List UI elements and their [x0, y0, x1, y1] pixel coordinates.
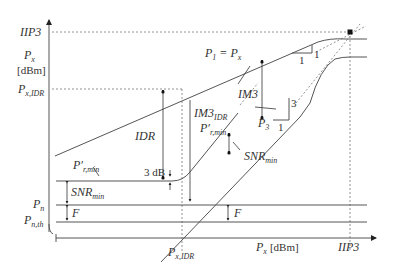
label-idr: IDR	[134, 129, 156, 143]
label-prmin-top: P′r,min	[199, 121, 226, 137]
y-label-px: Px	[23, 48, 35, 64]
y-axis	[49, 20, 53, 234]
y-label-px-idr: Px,IDR	[17, 82, 44, 98]
iip3-point	[348, 30, 353, 35]
label-p3: P3	[257, 116, 269, 132]
label-prmin-left: P′r,min	[72, 158, 99, 174]
label-3db: 3 dB	[144, 166, 165, 178]
label-im3-idr: IM3IDR	[193, 106, 227, 122]
label-f-left: F	[71, 206, 80, 220]
label-slope3-run: 1	[278, 121, 284, 133]
level-lines	[56, 205, 367, 222]
label-snr-min-left: SNRmin	[71, 185, 104, 201]
x-label-px: Px[dBm]	[255, 240, 299, 256]
y-label-iip3: IIP3	[19, 25, 41, 39]
y-label-unit: [dBm]	[17, 64, 46, 76]
label-f-right: F	[233, 206, 242, 220]
y-label-pn: Pn	[32, 197, 44, 213]
x-label-iip3: IIP3	[337, 240, 359, 254]
x-axis	[56, 234, 376, 242]
label-slope1-run: 1	[299, 54, 305, 66]
y-label-pnth: Pn,th	[23, 213, 44, 229]
dynamic-range-diagram: IIP3 Px [dBm] Px,IDR Pn Pn,th Px,IDR Px[…	[0, 0, 396, 267]
label-snr-min-mid: SNRmin	[244, 149, 277, 165]
label-im3: IM3	[237, 87, 258, 101]
x-label-px-idr: Px,IDR	[167, 245, 194, 261]
label-p1-eq-px: P1 = Px	[204, 46, 242, 62]
label-slope3-rise: 3	[291, 97, 297, 109]
label-slope1-rise: 1	[314, 48, 320, 60]
